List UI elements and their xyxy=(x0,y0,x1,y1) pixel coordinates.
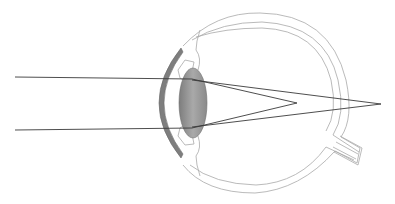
eye-diagram: Eye cross-section with light rays focusi… xyxy=(0,0,395,204)
sclera xyxy=(183,13,360,193)
